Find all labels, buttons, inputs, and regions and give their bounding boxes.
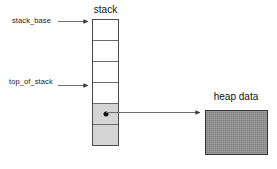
arrow-layer [0,0,277,169]
diagram-canvas: stack heap data stack_base top_of_stack [0,0,277,169]
